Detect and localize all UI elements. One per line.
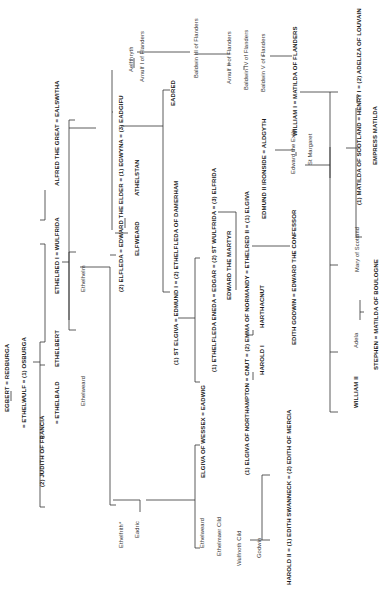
person-label-aelfthryth: Aelfthryth [128, 47, 135, 73]
person-label-eadred: EADRED [170, 80, 177, 106]
person-label-edgar: (1) ETHELFLEDA ENEDA = EDGAR = (2) ST WU… [211, 168, 218, 372]
person-label-baldwin4: Baldwin IV of Flanders [243, 30, 250, 90]
person-label-stephen: STEPHEN = MATILDA OF BOULOGNE [373, 259, 380, 370]
person-label-william1: WILLIAM I = MATILDA OF FLANDERS [292, 26, 299, 136]
person-label-edmund1: (1) ST ELGIVA = EDMUND I = (2) ETHELFLED… [173, 181, 180, 365]
person-label-wulfnoth: Wulfnoth Cild [236, 530, 243, 566]
person-label-arnulf1: Arnulf I of Flanders [139, 31, 146, 82]
person-label-edward_martyr: EDWARD THE MARTYR [226, 231, 233, 300]
person-label-ethelwulf: = ETHELWULF = (1) OSBURGA [21, 337, 28, 428]
person-label-judith: (2) JUDITH OF FRANCIA [39, 416, 46, 487]
person-label-ethelbald: = ETHELBALD [54, 381, 61, 424]
person-label-edward_elder: (2) ELFLEDA = EDWARD THE ELDER = (1) EGW… [118, 95, 125, 292]
person-label-harold2: HAROLD II = (1) EDITH SWANNECK = (2) EDI… [286, 409, 293, 585]
person-label-ethelhelm: Ethelhelm [80, 265, 87, 292]
person-label-harold1: HAROLD I [259, 345, 266, 375]
person-label-ethelbert: ETHELBERT [54, 330, 61, 367]
person-label-ethelmaer: Ethelmaer Cild [216, 517, 223, 556]
person-label-mary_scotland: Mary of Scotland [354, 227, 361, 272]
person-label-empress_matilda: EMPRESS MATILDA [372, 106, 379, 165]
person-label-arnulf2: Arnulf II of Flanders [226, 31, 233, 84]
person-label-ethelweard1: Ethelweard [80, 376, 87, 406]
person-label-henry1: (1) MATILDA OF SCOTLAND = HENRY I = (2) … [356, 8, 363, 205]
person-label-eadric: Eadric [134, 521, 141, 538]
person-label-william2: WILLIAM II [353, 376, 360, 408]
person-label-athelstan: ATHELSTAN [134, 160, 141, 196]
person-label-cnut: (1) ELGIVA OF NORTHAMPTON = CNUT = (2) E… [244, 191, 251, 475]
person-label-elfweard: ELFWEARD [134, 221, 141, 256]
person-label-elgiva_wessex: ELGIVA OF WESSEX = EADWIG [200, 385, 207, 478]
person-label-ethelred1: ETHELRED I = WULFRIDA [54, 217, 61, 294]
person-label-ethelfrith: Ethelfrith* [118, 522, 125, 548]
person-label-godwin: Godwin [256, 538, 263, 558]
person-label-baldwin5: Baldwin V of Flanders [260, 34, 267, 93]
person-label-egbert: EGBERT = REDBURGA [4, 344, 11, 412]
person-label-ethelweard2: Ethelweard [199, 518, 206, 548]
person-label-edith_godwin: EDITH GODWIN = EDWARD THE CONFESSOR [291, 210, 298, 345]
person-label-adela: Adela [353, 333, 360, 348]
person-label-alfred: ALFRED THE GREAT = EALSWITHA [54, 80, 61, 186]
person-label-st_margaret: St Margaret [307, 134, 314, 165]
person-label-baldwin3: Baldwin III of Flanders [193, 18, 200, 78]
person-label-edmund2: EDMUND II IRONSIDE = ALDGYTH [261, 119, 268, 219]
genealogy-diagram: EGBERT = REDBURGA= ETHELWULF = (1) OSBUR… [0, 0, 391, 589]
person-label-harthacnut: HARTHACNUT [259, 285, 266, 328]
